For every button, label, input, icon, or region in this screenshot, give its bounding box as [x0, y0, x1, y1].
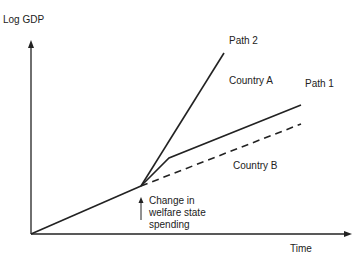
country-b-dashed-line: [141, 124, 301, 186]
annotation-line-1: Change in: [149, 195, 206, 207]
country-b-label: Country B: [233, 160, 277, 172]
baseline-line: [31, 186, 141, 234]
annotation-line-3: spending: [149, 219, 206, 231]
y-axis-label: Log GDP: [3, 14, 44, 26]
path2-line: [141, 53, 224, 186]
path1-label: Path 1: [305, 78, 334, 90]
annotation-line-2: welfare state: [149, 207, 206, 219]
welfare-annotation: Change in welfare state spending: [149, 195, 206, 231]
path2-label: Path 2: [229, 35, 258, 47]
country-a-label: Country A: [229, 75, 273, 87]
path1-line: [141, 105, 301, 186]
x-axis-label: Time: [290, 243, 312, 255]
